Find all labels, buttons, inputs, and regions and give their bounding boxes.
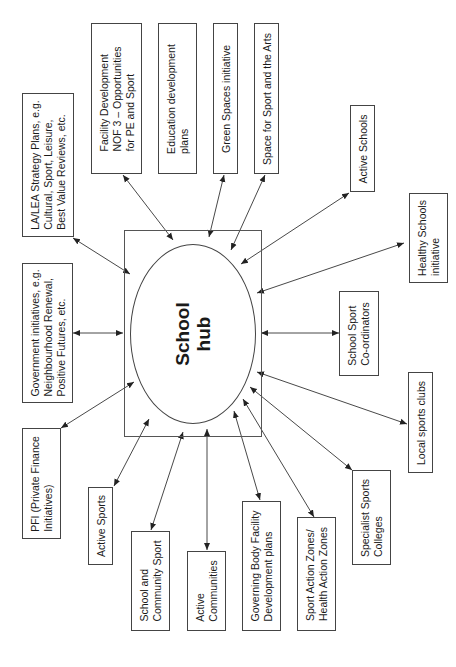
node-space-sport-arts: Space for Sport and the Arts xyxy=(254,23,279,174)
node-label: Healthy Schools initiative xyxy=(416,200,442,276)
node-label: Local sports clubs xyxy=(414,380,427,464)
node-label: School Sport Co-ordinators xyxy=(346,302,372,366)
node-label: Facility Development NOF 3 – Opportuniti… xyxy=(97,46,136,151)
node-local-sports-clubs: Local sports clubs xyxy=(408,372,433,473)
node-label: Active Communities xyxy=(194,560,220,621)
node-education-dev: Education development plans xyxy=(158,23,197,174)
node-school-community-sport: School and Community Sport xyxy=(131,531,170,631)
node-la-lea: LA/LEA Strategy Plans, e.g. Cultural, Sp… xyxy=(22,93,74,237)
arrow-healthy-schools xyxy=(257,243,404,293)
node-label: Specialist Sports Colleges xyxy=(359,478,385,556)
node-green-spaces: Green Spaces initiative xyxy=(213,23,238,174)
node-label: School and Community Sport xyxy=(138,540,164,621)
node-government-initiatives: Government initiatives, e.g. Neighbourho… xyxy=(22,263,73,403)
node-pfi: PFI (Private Finance Initiatives) xyxy=(22,428,61,539)
node-label: Government initiatives, e.g. Neighbourho… xyxy=(28,269,67,396)
node-label: Active Sports xyxy=(94,495,107,557)
node-governing-body: Governing Body Facility Development plan… xyxy=(242,501,281,631)
node-school-sport-coord: School Sport Co-ordinators xyxy=(339,291,379,376)
node-label: Education development plans xyxy=(165,44,191,154)
node-active-schools: Active Schools xyxy=(350,105,375,192)
school-hub-diagram: School hub LA/LEA Strategy Plans, e.g. C… xyxy=(0,0,456,667)
node-label: Governing Body Facility Development plan… xyxy=(249,511,275,622)
hub-ellipse: School hub xyxy=(130,244,256,424)
node-active-communities: Active Communities xyxy=(187,551,226,631)
node-specialist-sports: Specialist Sports Colleges xyxy=(352,470,391,565)
node-active-sports: Active Sports xyxy=(88,487,113,565)
node-label: Sport Action Zones/ Health Action Zones xyxy=(304,527,330,621)
node-label: LA/LEA Strategy Plans, e.g. Cultural, Sp… xyxy=(29,100,68,230)
arrow-green-spaces xyxy=(209,175,224,237)
node-label: PFI (Private Finance Initiatives) xyxy=(29,436,55,532)
node-sport-action-zones: Sport Action Zones/ Health Action Zones xyxy=(297,517,336,631)
node-healthy-schools: Healthy Schools initiative xyxy=(409,193,448,283)
node-facility-dev: Facility Development NOF 3 – Opportuniti… xyxy=(91,23,142,174)
node-label: Space for Sport and the Arts xyxy=(260,33,273,165)
arrow-la-lea xyxy=(73,238,130,274)
arrow-school-community-sport xyxy=(151,432,183,530)
node-label: Active Schools xyxy=(356,114,369,183)
node-label: Green Spaces initiative xyxy=(219,45,232,153)
arrow-local-sports-clubs xyxy=(257,372,407,424)
hub-label: School hub xyxy=(172,302,214,365)
